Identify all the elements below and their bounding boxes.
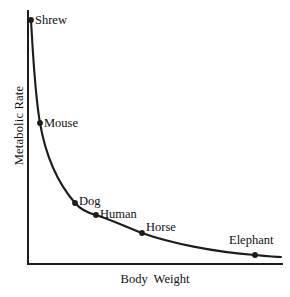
data-label-horse: Horse	[146, 221, 176, 234]
data-point-mouse	[37, 120, 43, 126]
data-point-dog	[72, 200, 78, 206]
curve-layer	[0, 0, 290, 297]
data-point-horse	[139, 230, 145, 236]
data-point-shrew	[28, 17, 34, 23]
data-label-elephant: Elephant	[229, 234, 273, 247]
data-label-shrew: Shrew	[35, 14, 67, 27]
data-label-mouse: Mouse	[44, 117, 78, 130]
metabolic-rate-chart: Shrew Mouse Dog Human Horse Elephant Met…	[0, 0, 290, 297]
y-axis-title: Metabolic Rate	[12, 66, 27, 186]
x-axis-title: Body Weight	[27, 272, 283, 287]
data-point-human	[93, 212, 99, 218]
data-point-elephant	[252, 252, 258, 258]
data-label-human: Human	[100, 208, 137, 221]
data-label-dog: Dog	[79, 195, 101, 208]
